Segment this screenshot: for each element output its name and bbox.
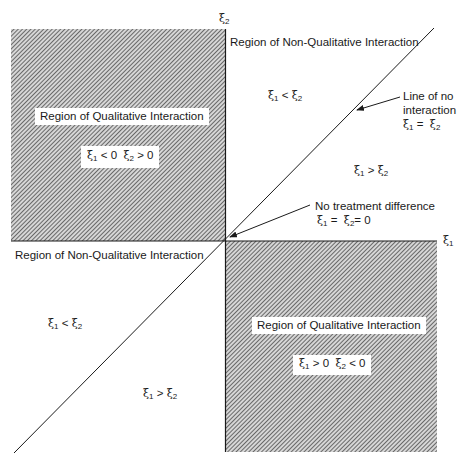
bottom-right-region-title: Region of Qualitative Interaction [252, 317, 426, 334]
no-interaction-annotation: Line of no interaction ξ1 = ξ2 [403, 89, 456, 135]
x-axis-label: ξ1 [443, 234, 454, 250]
top-right-region-title: Region of Non-Qualitative Interaction [230, 36, 419, 49]
bottom-left-region-title: Region of Non-Qualitative Interaction [15, 249, 204, 262]
no-difference-annotation: No treatment difference ξ1 = ξ2= 0 [315, 199, 435, 231]
bottom-right-region-condition: ξ1 > 0 ξ2 < 0 [293, 355, 371, 375]
top-right-lower-inequality: ξ1 > ξ2 [354, 164, 388, 180]
top-left-region-condition: ξ1 < 0 ξ2 > 0 [81, 146, 159, 168]
no-interaction-line1: Line of no [403, 89, 456, 103]
y-axis-label: ξ2 [219, 12, 230, 28]
qualitative-interaction-diagram [0, 0, 464, 467]
no-interaction-line2: interaction [403, 103, 456, 117]
bottom-left-upper-inequality: ξ1 < ξ2 [48, 317, 82, 333]
no-interaction-equation: ξ1 = ξ2 [403, 117, 456, 135]
bottom-right-hatched-region [226, 241, 437, 452]
no-difference-line1: No treatment difference [315, 199, 435, 213]
top-left-hatched-region [11, 29, 225, 241]
no-difference-equation: ξ1 = ξ2= 0 [315, 213, 435, 231]
bottom-left-lower-inequality: ξ1 > ξ2 [143, 387, 177, 403]
top-right-upper-inequality: ξ1 < ξ2 [268, 89, 302, 105]
top-left-region-title: Region of Qualitative Interaction [35, 108, 209, 125]
no-difference-arrow [230, 205, 310, 237]
